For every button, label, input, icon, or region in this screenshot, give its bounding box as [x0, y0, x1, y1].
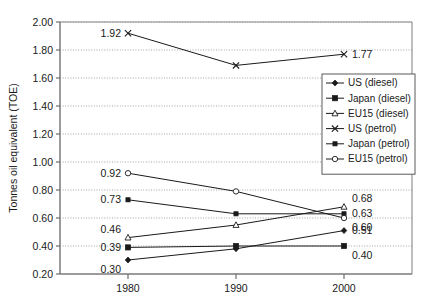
point-label: 0.73: [101, 193, 122, 205]
x-axis-tick-labels: 198019902000: [116, 282, 356, 294]
line-chart: 0.200.400.600.801.001.201.401.601.802.00…: [0, 0, 432, 306]
legend-label: US (petrol): [348, 123, 396, 134]
filled-square-marker: [125, 245, 130, 250]
open-circle-marker: [341, 215, 346, 220]
x-tick-label: 1980: [116, 282, 140, 294]
y-tick-label: 2.00: [33, 16, 54, 28]
point-label: 0.60: [352, 221, 373, 233]
filled-square-marker: [233, 243, 238, 248]
y-axis-title: Tonnes oil equivalent (TOE): [7, 83, 19, 212]
point-label: 0.30: [101, 263, 122, 275]
y-tick-label: 1.60: [33, 72, 54, 84]
y-tick-label: 1.20: [33, 128, 54, 140]
series-2: [125, 204, 347, 240]
point-label: 0.63: [352, 207, 373, 219]
y-tick-label: 1.40: [33, 100, 54, 112]
point-label: 0.68: [352, 192, 373, 204]
open-triangle-marker: [341, 204, 347, 210]
legend-label: EU15 (diesel): [348, 108, 409, 119]
legend-label: US (diesel): [348, 77, 397, 88]
point-label: 1.92: [101, 27, 122, 39]
cross-marker: [125, 30, 131, 36]
y-tick-label: 1.00: [33, 156, 54, 168]
series-line: [128, 173, 344, 218]
open-circle-marker: [125, 171, 130, 176]
y-tick-label: 0.40: [33, 240, 54, 252]
x-tick-label: 2000: [332, 282, 356, 294]
filled-square-marker: [332, 96, 337, 101]
legend-label: EU15 (petrol): [348, 153, 407, 164]
y-tick-label: 0.20: [33, 268, 54, 280]
point-label: 1.77: [352, 48, 373, 60]
point-label: 0.39: [101, 241, 122, 253]
y-tick-label: 0.60: [33, 212, 54, 224]
filled-diamond-marker: [125, 257, 131, 263]
point-label: 0.46: [101, 223, 122, 235]
y-tick-label: 0.80: [33, 184, 54, 196]
small-filled-square-marker: [234, 212, 238, 216]
legend-label: Japan (diesel): [348, 93, 411, 104]
small-filled-square-marker: [126, 198, 130, 202]
chart-legend: US (diesel)Japan (diesel)EU15 (diesel)US…: [322, 74, 415, 174]
series-layer: [125, 30, 347, 263]
point-label: 0.40: [352, 249, 373, 261]
series-4: [126, 198, 346, 216]
series-3: [125, 30, 347, 68]
filled-square-marker: [341, 243, 346, 248]
open-circle-marker: [332, 156, 337, 161]
legend-label: Japan (petrol): [348, 138, 410, 149]
filled-diamond-marker: [341, 228, 347, 234]
y-tick-label: 1.80: [33, 44, 54, 56]
x-tick-label: 1990: [224, 282, 248, 294]
y-axis-tick-labels: 0.200.400.600.801.001.201.401.601.802.00: [33, 16, 54, 280]
open-circle-marker: [233, 189, 238, 194]
series-line: [128, 33, 344, 65]
chart-container: 0.200.400.600.801.001.201.401.601.802.00…: [0, 0, 432, 306]
point-label: 0.92: [101, 167, 122, 179]
small-filled-square-marker: [333, 142, 337, 146]
